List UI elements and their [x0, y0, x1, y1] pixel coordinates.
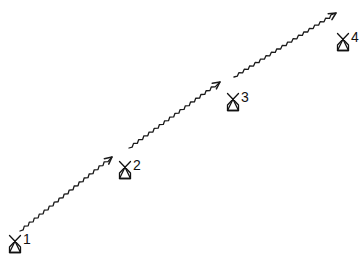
- node-label-x2: 2: [118, 160, 141, 182]
- node-index: 1: [23, 232, 31, 246]
- x-triangle-glyph-icon: [8, 234, 22, 254]
- wavy-arrow-edge: [234, 13, 336, 77]
- node-label-x4: 4: [336, 32, 359, 54]
- node-index: 4: [351, 30, 359, 44]
- wavy-arrow-edge: [129, 82, 220, 148]
- node-label-x1: 1: [8, 234, 31, 256]
- node-label-x3: 3: [226, 92, 249, 114]
- node-index: 2: [133, 158, 141, 172]
- node-index: 3: [241, 90, 249, 104]
- diagram-canvas: [0, 0, 359, 260]
- x-triangle-glyph-icon: [118, 160, 132, 180]
- wavy-arrow-edge: [20, 157, 112, 231]
- x-triangle-glyph-icon: [336, 32, 350, 52]
- x-triangle-glyph-icon: [226, 92, 240, 112]
